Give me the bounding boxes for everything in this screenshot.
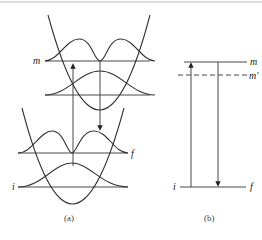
label-f-a: f (131, 148, 135, 159)
panel-b: m m' i f (b) (173, 56, 259, 223)
label-i-b: i (173, 181, 176, 192)
label-m-prime-b: m' (249, 70, 259, 81)
caption-b: (b) (204, 213, 215, 223)
label-i-a: i (12, 181, 15, 192)
i-wavefunction (18, 163, 128, 187)
panel-a: m f i (a) (12, 15, 155, 223)
label-m-a: m (33, 55, 40, 66)
caption-a: (a) (64, 213, 74, 223)
label-f-b: f (250, 181, 254, 192)
upper-potential-well (48, 15, 150, 110)
label-m-b: m (250, 56, 257, 67)
diagram-canvas: m f i (a) m m' i f (b) (0, 0, 262, 240)
